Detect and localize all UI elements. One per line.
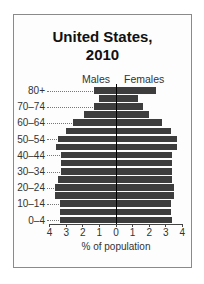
female-bar <box>116 184 174 191</box>
age-group-label: 70–74 <box>11 101 45 112</box>
male-bar <box>73 119 116 126</box>
age-group-label: 80+ <box>11 85 45 96</box>
male-bar <box>55 184 116 191</box>
dotted-leader-line <box>47 123 72 124</box>
male-bar <box>60 200 116 207</box>
female-bar <box>116 87 156 94</box>
female-bar <box>116 152 172 159</box>
dotted-leader-line <box>47 107 93 108</box>
age-group-label: 30–34 <box>11 166 45 177</box>
female-bar <box>116 128 171 135</box>
dotted-leader-line <box>47 204 59 205</box>
x-axis-tick-label: 2 <box>143 227 155 238</box>
male-bar <box>66 128 116 135</box>
age-group-label: 0–4 <box>11 215 45 226</box>
x-axis-tick-label: 0 <box>110 227 122 238</box>
female-bar <box>116 168 172 175</box>
female-bar <box>116 217 172 224</box>
female-bar <box>116 192 174 199</box>
x-axis-tick-label: 3 <box>160 227 172 238</box>
x-axis-tick-label: 4 <box>176 227 188 238</box>
dotted-leader-line <box>47 188 54 189</box>
male-bar <box>99 95 116 102</box>
x-axis-tick-label: 3 <box>60 227 72 238</box>
male-bar <box>61 152 116 159</box>
female-bar <box>116 95 138 102</box>
female-bar <box>116 160 172 167</box>
x-axis-tick-label: 1 <box>93 227 105 238</box>
dotted-leader-line <box>47 172 60 173</box>
age-group-label: 50–54 <box>11 134 45 145</box>
male-bar <box>61 168 116 175</box>
x-axis-tick-label: 1 <box>127 227 139 238</box>
female-bar <box>116 103 143 110</box>
x-axis-tick-label: 4 <box>44 227 56 238</box>
female-bar <box>116 111 149 118</box>
x-axis-tick-label: 2 <box>77 227 89 238</box>
male-bar <box>56 144 116 151</box>
male-bar <box>61 160 116 167</box>
male-bar <box>94 103 116 110</box>
male-bar <box>55 192 116 199</box>
age-group-label: 60–64 <box>11 117 45 128</box>
dotted-leader-line <box>47 220 59 221</box>
male-bar <box>58 176 116 183</box>
female-bar <box>116 176 172 183</box>
age-group-label: 10–14 <box>11 198 45 209</box>
male-bar <box>84 111 116 118</box>
male-bar <box>60 217 116 224</box>
zero-axis-line <box>116 84 117 224</box>
age-group-label: 40–44 <box>11 150 45 161</box>
female-bar <box>116 209 171 216</box>
x-axis-label: % of population <box>13 241 204 253</box>
female-bar <box>116 136 177 143</box>
female-bar <box>116 200 171 207</box>
female-bar <box>116 144 177 151</box>
male-bar <box>60 209 116 216</box>
dotted-leader-line <box>47 155 60 156</box>
age-group-label: 20–24 <box>11 182 45 193</box>
male-bar <box>94 87 116 94</box>
female-bar <box>116 119 162 126</box>
dotted-leader-line <box>47 139 57 140</box>
male-bar <box>58 136 116 143</box>
dotted-leader-line <box>47 91 93 92</box>
